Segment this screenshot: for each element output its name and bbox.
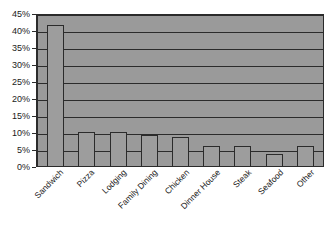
plot-area bbox=[37, 14, 324, 167]
y-axis-tick-label: 40% bbox=[12, 27, 30, 36]
bar-slot bbox=[196, 15, 227, 166]
x-axis-label-lodging: Lodging bbox=[100, 168, 127, 195]
bar-dinner-house[interactable] bbox=[203, 146, 220, 166]
bar-slot bbox=[102, 15, 133, 166]
y-axis-tick-labels: 0%5%10%15%20%25%30%35%40%45% bbox=[0, 0, 32, 236]
bar-slot bbox=[227, 15, 258, 166]
bar-chart: 0%5%10%15%20%25%30%35%40%45% SandwichPiz… bbox=[0, 0, 330, 236]
x-axis-label-chicken: Chicken bbox=[163, 168, 191, 196]
x-axis-label-seafood: Seafood bbox=[256, 168, 284, 196]
bar-steak[interactable] bbox=[234, 146, 251, 166]
bar-family-dining[interactable] bbox=[141, 135, 158, 166]
x-axis-tick-labels: SandwichPizzaLodgingFamily DiningChicken… bbox=[37, 168, 324, 236]
y-axis-tick-label: 30% bbox=[12, 61, 30, 70]
bar-slot bbox=[165, 15, 196, 166]
y-axis-tick-mark bbox=[32, 31, 36, 32]
y-axis-tick-mark bbox=[32, 167, 36, 168]
y-axis-tick-label: 20% bbox=[12, 95, 30, 104]
bar-slot bbox=[71, 15, 102, 166]
bar-slot bbox=[134, 15, 165, 166]
y-axis-tick-mark bbox=[32, 133, 36, 134]
x-axis-label-other: Other bbox=[295, 168, 316, 189]
bar-other[interactable] bbox=[297, 146, 314, 166]
y-axis-tick-mark bbox=[32, 150, 36, 151]
y-axis-tick-label: 5% bbox=[17, 146, 30, 155]
y-axis-tick-label: 15% bbox=[12, 112, 30, 121]
x-axis-label-pizza: Pizza bbox=[75, 168, 96, 189]
y-axis-tick-mark bbox=[32, 99, 36, 100]
bar-seafood[interactable] bbox=[266, 154, 283, 166]
y-axis-tick-label: 10% bbox=[12, 129, 30, 138]
y-axis-tick-label: 25% bbox=[12, 78, 30, 87]
y-axis-tick-mark bbox=[32, 82, 36, 83]
x-axis-label-sandwich: Sandwich bbox=[33, 168, 65, 200]
y-axis-tick-mark bbox=[32, 65, 36, 66]
y-axis-tick-mark bbox=[32, 14, 36, 15]
bar-slot bbox=[290, 15, 321, 166]
bar-slot bbox=[259, 15, 290, 166]
bar-pizza[interactable] bbox=[78, 132, 95, 166]
bar-sandwich[interactable] bbox=[47, 25, 64, 166]
y-axis-tick-label: 35% bbox=[12, 44, 30, 53]
bar-lodging[interactable] bbox=[110, 132, 127, 166]
bars-container bbox=[38, 15, 323, 166]
y-axis-tick-mark bbox=[32, 48, 36, 49]
y-axis-tick-label: 45% bbox=[12, 10, 30, 19]
y-axis-tick-mark bbox=[32, 116, 36, 117]
bar-chicken[interactable] bbox=[172, 137, 189, 166]
bar-slot bbox=[40, 15, 71, 166]
y-axis-tick-label: 0% bbox=[17, 163, 30, 172]
x-axis-label-steak: Steak bbox=[232, 168, 253, 189]
